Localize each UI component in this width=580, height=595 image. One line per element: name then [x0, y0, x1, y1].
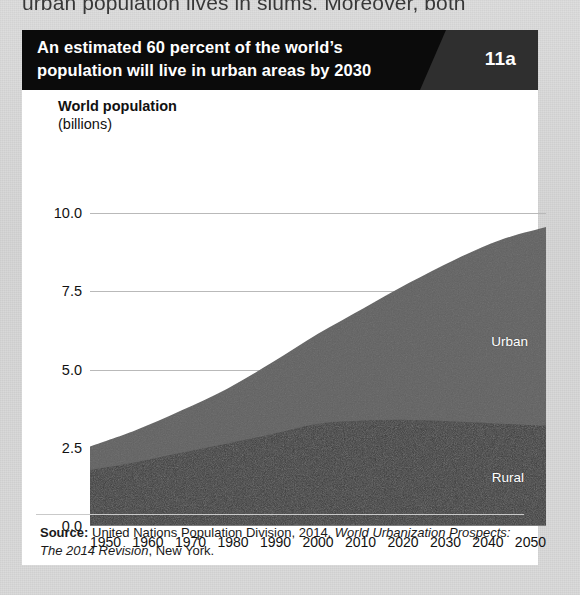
figure-number-badge: 11a	[485, 48, 516, 70]
source-text-after: , New York.	[148, 543, 214, 558]
source-note: Source: United Nations Population Divisi…	[22, 524, 538, 561]
surrounding-body-text: urban population lives in slums. Moreove…	[22, 0, 562, 15]
chart-area-svg	[90, 213, 546, 526]
source-text-before: United Nations Population Division, 2014…	[88, 525, 334, 540]
source-label: Source:	[40, 525, 88, 540]
chart-plot-block: World population (billions) 0.02.55.07.5…	[22, 90, 538, 518]
chart-y-tick-label: 7.5	[62, 283, 82, 299]
chart-y-tick-label: 5.0	[62, 362, 82, 378]
chart-y-tick-label: 10.0	[54, 205, 82, 221]
figure-header-banner: An estimated 60 percent of the world’s p…	[22, 30, 538, 90]
chart-plot-area: 0.02.55.07.510.0	[90, 213, 546, 526]
source-divider	[36, 514, 524, 515]
chart-axis-title: World population	[58, 98, 177, 115]
figure-title: An estimated 60 percent of the world’s p…	[37, 36, 407, 83]
figure-number-panel	[420, 30, 538, 90]
chart-area-series	[90, 213, 546, 526]
figure-card: An estimated 60 percent of the world’s p…	[22, 30, 538, 565]
chart-axis-units: (billions)	[58, 116, 112, 133]
chart-y-tick-label: 2.5	[62, 440, 82, 456]
